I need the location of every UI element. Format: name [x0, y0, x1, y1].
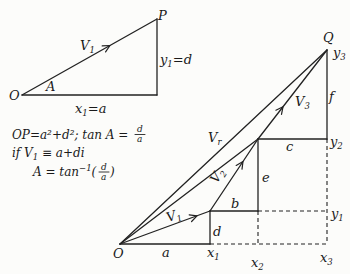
y2-label: y2	[329, 134, 343, 151]
formula-3-close: )	[109, 165, 115, 179]
component-f-label: f	[328, 89, 336, 104]
origin-label: O	[9, 88, 20, 103]
arrowhead-icon	[236, 162, 243, 170]
point-p-label: P	[157, 8, 167, 23]
vector-v3-label: V3	[295, 94, 310, 111]
vector-v1-label: V1	[80, 38, 95, 55]
base-label: x1=a	[75, 101, 106, 118]
component-d-label: d	[213, 224, 221, 239]
angle-a-label: A	[45, 79, 55, 94]
vector-v3-line	[258, 50, 327, 139]
formula-1-numerator: d	[137, 124, 143, 134]
partial-sum-line	[120, 139, 258, 244]
side-label: y1=d	[159, 52, 192, 69]
vector-v2-label: V2	[207, 165, 229, 187]
formula-line-1: OP=a²+d²; tan A =	[12, 128, 128, 142]
y3-label: y3	[332, 45, 346, 62]
x3-label: x3	[320, 250, 333, 267]
component-b-label: b	[231, 196, 239, 211]
vector-v1-line	[22, 19, 157, 95]
component-a-label: a	[162, 245, 170, 260]
resultant-vr-label: Vr	[208, 130, 222, 147]
formula-3-numerator: d	[101, 162, 107, 172]
point-q-label: Q	[323, 30, 334, 45]
x1-label: x1	[207, 245, 220, 262]
formula-1-denominator: a	[137, 134, 142, 144]
right-vector-addition: O Q a d b e c f x1 x2 x3 y1 y2 y3 V1 V2 …	[113, 30, 346, 272]
formula-block: OP=a²+d²; tan A = d a if V1 ≡ a+di A = t…	[12, 124, 145, 182]
x2-label: x2	[251, 255, 264, 272]
y1-label: y1	[330, 206, 344, 223]
origin-label: O	[113, 246, 124, 261]
component-c-label: c	[286, 139, 294, 154]
formula-line-2: if V1 ≡ a+di	[12, 146, 85, 162]
vector-addition-diagram: O P V1 A x1=a y1=d OP=a²+d²; tan A = d a…	[0, 0, 350, 274]
formula-line-3: A = tan−1(	[32, 163, 97, 179]
formula-3-denominator: a	[101, 172, 106, 182]
left-vector-triangle: O P V1 A x1=a y1=d	[9, 8, 192, 118]
component-e-label: e	[262, 170, 270, 185]
resultant-vr-line	[120, 50, 327, 244]
